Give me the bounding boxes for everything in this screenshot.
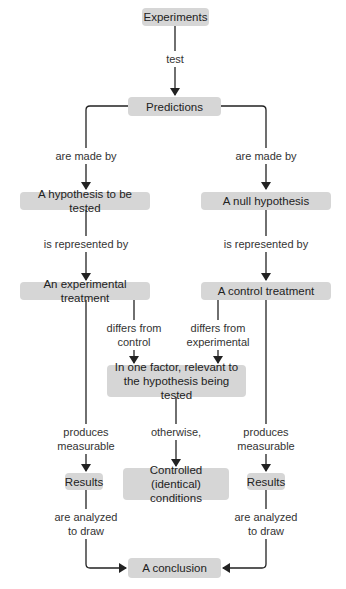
edge-label-analyzed-right: are analyzed to draw: [234, 509, 299, 539]
edge-label-line1: are analyzed: [235, 510, 298, 524]
node-label-line1: Controlled (identical): [127, 463, 225, 491]
node-label: A conclusion: [142, 561, 207, 575]
node-controlled-conditions: Controlled (identical) conditions: [123, 468, 229, 500]
node-results-right: Results: [247, 473, 285, 490]
node-experimental-treatment: An experimental treatment: [20, 282, 150, 300]
node-null-hypothesis: A null hypothesis: [201, 192, 331, 210]
edge-label-line1: produces: [237, 425, 294, 439]
node-results-left: Results: [65, 473, 103, 490]
edge-label-produces-left: produces measurable: [56, 424, 115, 454]
edge-label-line1: produces: [57, 425, 114, 439]
edge-label-made-by-right: are made by: [234, 148, 297, 164]
edge-label-line2: to draw: [235, 524, 298, 538]
node-label-line2: conditions: [150, 491, 202, 505]
edge-label-analyzed-left: are analyzed to draw: [54, 509, 119, 539]
edge-label-line1: differs from: [107, 321, 162, 335]
node-conclusion: A conclusion: [128, 558, 221, 578]
edge-label-made-by-left: are made by: [54, 148, 117, 164]
node-label: A null hypothesis: [223, 194, 309, 208]
node-label: Results: [65, 475, 103, 489]
node-experiments: Experiments: [142, 8, 209, 26]
node-one-factor: In one factor, relevant to the hypothesi…: [107, 365, 246, 397]
edge-label-produces-right: produces measurable: [236, 424, 295, 454]
edge-label-test: test: [165, 51, 185, 67]
node-label: Experiments: [144, 10, 208, 24]
edge-label-line1: differs from: [187, 321, 250, 335]
edge-label-line2: measurable: [57, 439, 114, 453]
edge-label-line2: to draw: [55, 524, 118, 538]
node-label-line1: In one factor, relevant to: [115, 360, 238, 374]
edge-label-line2: experimental: [187, 335, 250, 349]
edge-label-differs-experimental: differs from experimental: [186, 320, 251, 350]
edge-label-line2: measurable: [237, 439, 294, 453]
node-label: Predictions: [146, 100, 203, 114]
node-label: A hypothesis to be tested: [24, 187, 146, 215]
node-hypothesis: A hypothesis to be tested: [20, 192, 150, 210]
node-control-treatment: A control treatment: [201, 282, 331, 300]
node-label-line2: the hypothesis being tested: [111, 374, 242, 402]
edge-label-represented-right: is represented by: [223, 236, 309, 252]
edge-label-differs-control: differs from control: [106, 320, 163, 350]
node-label: An experimental treatment: [24, 277, 146, 305]
node-predictions: Predictions: [128, 97, 221, 116]
edge-label-line2: control: [107, 335, 162, 349]
node-label: Results: [247, 475, 285, 489]
node-label: A control treatment: [218, 284, 315, 298]
edge-label-represented-left: is represented by: [43, 236, 129, 252]
edge-label-otherwise: otherwise,: [150, 424, 202, 440]
edge-label-line1: are analyzed: [55, 510, 118, 524]
